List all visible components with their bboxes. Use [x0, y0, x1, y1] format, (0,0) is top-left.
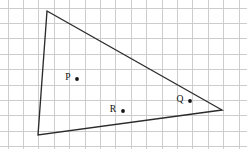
point-label-p: P — [65, 71, 70, 82]
point-dot-q — [188, 99, 192, 103]
point-dot-p — [75, 77, 79, 81]
point-label-r: R — [110, 103, 117, 114]
point-label-q: Q — [177, 93, 184, 104]
geometry-figure-svg: PQR — [0, 0, 247, 149]
labeled-points-group: PQR — [65, 71, 192, 114]
point-dot-r — [121, 109, 125, 113]
graph-paper-grid — [0, 0, 247, 149]
figure-container: PQR — [0, 0, 247, 149]
